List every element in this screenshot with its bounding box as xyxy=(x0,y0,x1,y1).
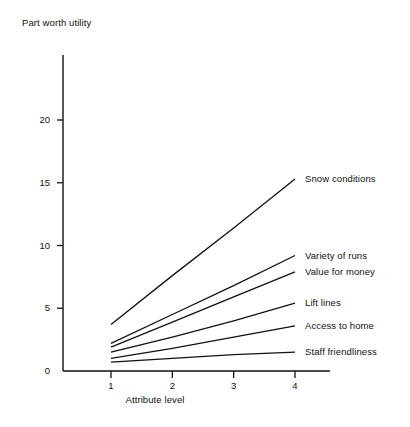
series-label-access-to-home: Access to home xyxy=(305,320,374,331)
y-tick-label-15: 15 xyxy=(24,177,50,188)
series-line xyxy=(111,303,295,352)
x-axis-title: Attribute level xyxy=(0,394,410,405)
y-axis-ticks xyxy=(57,120,63,308)
series-label-lift-lines: Lift lines xyxy=(305,297,341,308)
series-label-variety-of-runs: Variety of runs xyxy=(305,250,367,261)
series-label-snow-conditions: Snow conditions xyxy=(305,173,376,184)
part-worth-utility-chart: Part worth utility 0 5 10 15 20 1 2 3 4 … xyxy=(0,0,410,427)
y-tick-label-5: 5 xyxy=(24,302,50,313)
x-axis-ticks xyxy=(111,371,295,378)
axes xyxy=(63,55,330,371)
series-line xyxy=(111,256,295,344)
y-tick-label-0: 0 xyxy=(24,365,50,376)
plot-area xyxy=(0,0,410,427)
series-label-value-for-money: Value for money xyxy=(305,266,375,277)
x-tick-label-2: 2 xyxy=(162,380,182,391)
series-line xyxy=(111,272,295,347)
x-tick-label-3: 3 xyxy=(224,380,244,391)
y-tick-label-10: 10 xyxy=(24,240,50,251)
x-tick-label-1: 1 xyxy=(101,380,121,391)
series-label-staff-friendliness: Staff friendliness xyxy=(305,346,377,357)
y-tick-label-20: 20 xyxy=(24,114,50,125)
series-line xyxy=(111,179,295,325)
x-tick-label-4: 4 xyxy=(285,380,305,391)
series-lines xyxy=(111,179,295,362)
